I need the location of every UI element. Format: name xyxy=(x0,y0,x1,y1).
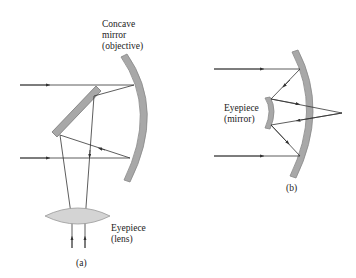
eyepiece-lens-label: Eyepiece (lens) xyxy=(111,223,146,245)
eyepiece-lens xyxy=(45,208,110,224)
label-line: Concave xyxy=(102,19,143,30)
diagram-a xyxy=(20,54,147,248)
label-line: (mirror) xyxy=(224,114,259,125)
caption-a: (a) xyxy=(76,258,87,269)
caption-b: (b) xyxy=(286,183,297,194)
flat-mirror xyxy=(52,86,101,137)
label-line: Eyepiece xyxy=(111,223,146,234)
secondary-mirror xyxy=(265,97,274,129)
label-line: Eyepiece xyxy=(224,103,259,114)
eyepiece-mirror-label: Eyepiece (mirror) xyxy=(224,103,259,125)
telescope-diagrams xyxy=(0,0,356,278)
objective-label: Concave mirror (objective) xyxy=(102,19,143,52)
label-line: mirror xyxy=(102,30,143,41)
label-line: (lens) xyxy=(111,234,146,245)
label-line: (objective) xyxy=(102,41,143,52)
